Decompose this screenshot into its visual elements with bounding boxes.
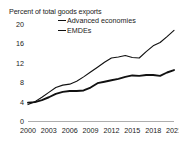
chart-legend: Advanced economies EMDEs (58, 15, 136, 35)
legend-item-emdes: EMDEs (58, 25, 136, 35)
legend-item-advanced-economies: Advanced economies (58, 15, 136, 25)
legend-swatch-icon (58, 30, 66, 31)
legend-label-advanced-economies: Advanced economies (67, 16, 136, 25)
line-advanced-economies (28, 70, 174, 103)
x-axis-labels: 20002003200620092012201520182021 (0, 126, 179, 138)
legend-label-emdes: EMDEs (67, 26, 91, 35)
legend-swatch-icon (58, 20, 66, 21)
x-axis-tick-label: 2021 (161, 126, 179, 135)
line-emdes (28, 30, 174, 104)
chart-container: Percent of total goods exports 048121620… (0, 0, 179, 141)
